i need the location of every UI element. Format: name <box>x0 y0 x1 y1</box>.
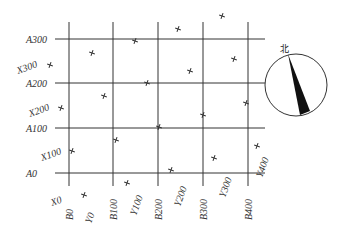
cross-mark <box>131 37 139 45</box>
north-label: 北 <box>280 44 289 54</box>
label-b300: B300 <box>198 199 209 220</box>
cross-mark <box>123 179 131 187</box>
label-a200: A200 <box>25 78 47 89</box>
cross-mark <box>57 104 65 112</box>
label-a100: A100 <box>25 123 47 134</box>
label-y0: Y0 <box>83 211 97 225</box>
label-b400: B400 <box>243 199 254 220</box>
cross-mark <box>100 92 108 100</box>
label-y100: Y100 <box>128 194 145 217</box>
cross-mark <box>88 49 96 57</box>
survey-grid-diagram: A300 A200 A100 A0 X300 X200 X100 X0 B0 B… <box>0 0 343 239</box>
label-y400: Y400 <box>254 156 271 179</box>
cross-mark <box>210 154 218 162</box>
cross-mark <box>242 99 250 107</box>
label-x200: X200 <box>26 101 51 119</box>
cross-mark <box>218 12 226 20</box>
cross-marks <box>46 12 261 199</box>
cross-mark <box>155 123 163 131</box>
cross-mark <box>80 191 88 199</box>
label-a0: A0 <box>25 168 37 179</box>
label-x0: X0 <box>48 194 63 208</box>
label-x100: X100 <box>38 145 63 163</box>
cross-mark <box>46 61 54 69</box>
cross-mark <box>230 55 238 63</box>
cross-mark <box>174 25 182 33</box>
label-y300: Y300 <box>217 176 234 199</box>
label-x300: X300 <box>14 58 39 76</box>
north-compass: 北 <box>265 44 327 116</box>
grid-lines <box>55 22 265 186</box>
label-b100: B100 <box>108 199 119 220</box>
label-b0: B0 <box>64 209 75 220</box>
label-b200: B200 <box>153 199 164 220</box>
cross-mark <box>186 67 194 75</box>
label-a300: A300 <box>25 34 47 45</box>
cross-mark <box>253 142 261 150</box>
label-y200: Y200 <box>172 185 189 208</box>
north-arrow-icon <box>288 54 310 115</box>
